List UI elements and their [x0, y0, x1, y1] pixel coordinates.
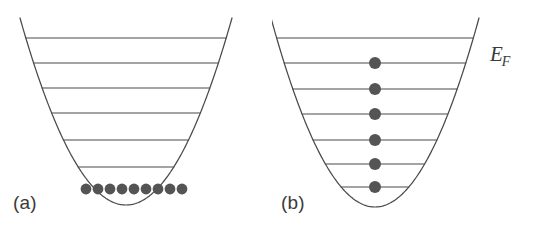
particle	[165, 184, 176, 195]
particle	[93, 184, 104, 195]
energy-level-group	[26, 38, 226, 167]
fermi-energy-symbol: E	[490, 42, 503, 66]
panel-a-graphic	[0, 0, 272, 229]
panel-b: (b) EF	[272, 0, 544, 229]
particle	[369, 134, 381, 146]
particle	[153, 184, 164, 195]
particle	[177, 184, 188, 195]
fermi-energy-subscript: F	[502, 54, 511, 69]
particle	[117, 184, 128, 195]
particle	[129, 184, 140, 195]
panel-b-label: (b)	[281, 192, 305, 214]
particle-group	[369, 57, 381, 193]
particle-group	[81, 184, 188, 195]
particle	[369, 108, 381, 120]
particle	[369, 57, 381, 69]
panel-a: (a)	[0, 0, 272, 229]
particle	[369, 158, 381, 170]
particle	[369, 181, 381, 193]
fermi-energy-label: EF	[490, 42, 510, 70]
particle	[141, 184, 152, 195]
particle	[105, 184, 116, 195]
potential-well-curve	[20, 18, 232, 205]
panel-a-label: (a)	[13, 192, 37, 214]
panel-b-graphic	[272, 0, 544, 229]
particle	[369, 83, 381, 95]
particle	[81, 184, 92, 195]
energy-level-diagram: (a) (b) EF	[0, 0, 544, 229]
